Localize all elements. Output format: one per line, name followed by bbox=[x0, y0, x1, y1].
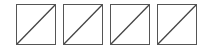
placeholder-slot-1[interactable] bbox=[16, 4, 56, 45]
empty-slot-diagonal-icon bbox=[111, 5, 149, 44]
placeholder-slot-3[interactable] bbox=[110, 4, 150, 45]
empty-slot-diagonal-icon bbox=[17, 5, 55, 44]
empty-slot-diagonal-icon bbox=[64, 5, 102, 44]
empty-slot-diagonal-icon bbox=[158, 5, 196, 44]
placeholder-slot-4[interactable] bbox=[157, 4, 197, 45]
placeholder-slot-strip bbox=[0, 0, 208, 52]
placeholder-slot-2[interactable] bbox=[63, 4, 103, 45]
